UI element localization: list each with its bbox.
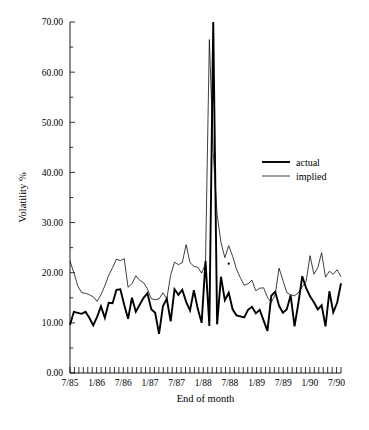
y-axis-title: Volatility % (17, 172, 28, 223)
y-axis-tick-label: 0.00 (46, 368, 63, 378)
volatility-chart: 0.0010.0020.0030.0040.0050.0060.0070.007… (0, 0, 369, 430)
x-axis-tick-label: 7/90 (328, 378, 345, 388)
legend-label-implied: implied (296, 171, 327, 182)
x-axis-tick-label: 7/88 (221, 378, 238, 388)
y-axis-tick-label: 60.00 (42, 68, 64, 78)
x-axis-tick-label: 1/86 (88, 378, 105, 388)
y-axis-tick-label: 10.00 (42, 318, 64, 328)
x-axis-tick-label: 7/85 (62, 378, 79, 388)
x-axis-tick-label: 1/87 (142, 378, 159, 388)
y-axis-tick-label: 70.00 (42, 17, 64, 27)
x-axis-tick-label: 7/87 (168, 378, 185, 388)
x-axis-tick-label: 7/89 (275, 378, 292, 388)
x-axis-tick-label: 1/89 (248, 378, 265, 388)
y-axis-tick-label: 50.00 (42, 118, 64, 128)
legend-label-actual: actual (296, 157, 320, 168)
y-axis-tick-label: 30.00 (42, 218, 64, 228)
x-axis-tick-label: 1/88 (195, 378, 212, 388)
chart-canvas: 0.0010.0020.0030.0040.0050.0060.0070.007… (0, 0, 369, 430)
y-axis-tick-label: 40.00 (42, 168, 64, 178)
x-axis-title: End of month (177, 393, 235, 404)
chart-axes (70, 22, 341, 373)
x-axis-tick-label: 7/86 (115, 378, 132, 388)
stray-speck (228, 263, 230, 265)
y-axis-tick-label: 20.00 (42, 268, 64, 278)
x-axis-tick-label: 1/90 (301, 378, 318, 388)
